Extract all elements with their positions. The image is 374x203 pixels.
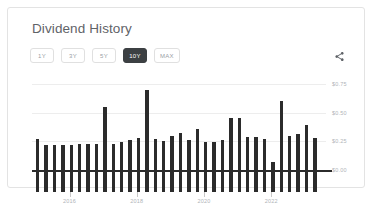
chart-bar [61,145,64,192]
y-axis-tick-label: $0.00 [332,167,347,173]
chart-bar [313,138,316,192]
page-title: Dividend History [32,21,132,36]
y-axis-tick-label: $0.50 [332,110,347,116]
x-axis-tick [70,192,71,197]
x-axis-tick [137,192,138,197]
dividend-chart: $0.75$0.50$0.25$0.00 2016201820202022 [8,70,366,189]
chart-bar [78,144,81,192]
chart-bar [271,162,274,192]
chart-bar [305,125,308,192]
x-axis-tick-label: 2018 [130,198,143,203]
chart-bar [212,142,215,192]
chart-bar [103,107,106,192]
chart-bar [221,140,224,192]
chart-bar [296,134,299,192]
chart-bar [246,137,249,192]
y-axis-tick-label: $0.25 [332,138,347,144]
chart-bar [120,142,123,192]
range-button-5y[interactable]: 5Y [92,48,116,63]
chart-bar [145,90,148,192]
chart-bar [53,145,56,192]
range-button-1y[interactable]: 1Y [30,48,54,63]
chart-bar [187,140,190,192]
range-selector-toolbar: 1Y3Y5Y10YMAX [30,48,180,63]
dividend-history-card: Dividend History 1Y3Y5Y10YMAX $0.75$0.50… [7,7,365,188]
chart-bar [86,144,89,192]
chart-bar [162,141,165,192]
chart-bar [36,139,39,192]
chart-bar [44,145,47,192]
y-axis-tick-label: $0.75 [332,81,347,87]
chart-bar [137,138,140,192]
chart-bar [204,142,207,192]
chart-bar [288,136,291,192]
chart-bar [196,129,199,192]
gridline [32,84,326,85]
chart-bar [229,118,232,192]
x-axis-tick [271,192,272,197]
chart-bar [238,118,241,192]
chart-bar [263,139,266,192]
x-axis-tick-label: 2020 [198,198,211,203]
range-button-10y[interactable]: 10Y [123,48,147,63]
chart-bar [70,145,73,192]
share-icon[interactable] [330,47,348,65]
chart-bar [280,101,283,192]
chart-bar [170,136,173,192]
chart-bar [112,144,115,192]
x-axis-tick-label: 2022 [265,198,278,203]
chart-bar [154,139,157,192]
range-button-max[interactable]: MAX [154,48,180,63]
chart-bar [179,133,182,192]
range-button-3y[interactable]: 3Y [61,48,85,63]
chart-bar [128,140,131,192]
chart-bar [254,137,257,192]
chart-bar [95,144,98,192]
x-axis-tick [204,192,205,197]
x-axis-tick-label: 2016 [63,198,76,203]
